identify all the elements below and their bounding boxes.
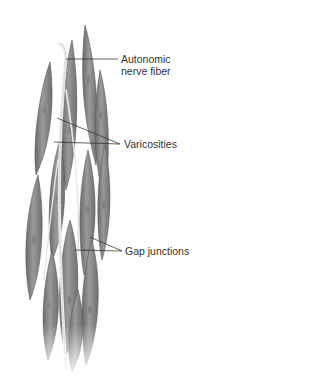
label-gap-junctions: Gap junctions (125, 245, 189, 257)
label-varicosities: Varicosities (124, 138, 177, 150)
label-line: Autonomic (121, 53, 171, 65)
label-autonomic-nerve-fiber: Autonomic nerve fiber (121, 53, 171, 77)
label-line: nerve fiber (121, 65, 171, 77)
